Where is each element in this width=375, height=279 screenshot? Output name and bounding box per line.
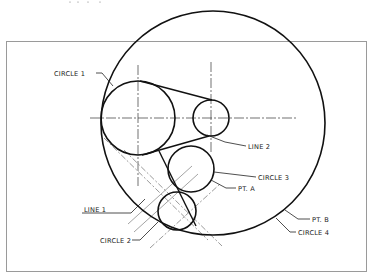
pta-leader	[211, 180, 236, 188]
circle3-leader	[214, 172, 256, 177]
label-line-1: LINE 1	[84, 206, 106, 214]
label-circle-4: CIRCLE 4	[298, 229, 329, 237]
cropped-caption-fragment	[69, 1, 100, 2]
tangent-line-upper	[140, 81, 212, 100]
label-circle-3: CIRCLE 3	[258, 174, 289, 182]
line1-construction-a	[134, 174, 198, 232]
circle-3	[168, 146, 214, 192]
label-circle-2: CIRCLE 2	[100, 237, 131, 245]
label-circle-1: CIRCLE 1	[54, 70, 85, 78]
circle2-leader	[132, 222, 158, 240]
ptb-leader	[285, 210, 310, 219]
tangent-line-1	[159, 151, 196, 226]
construction-diagonal-2	[124, 150, 222, 246]
construction-diagonal-1	[104, 138, 208, 240]
label-pt-a: PT. A	[238, 185, 255, 193]
circle-2	[158, 192, 196, 230]
cad-drawing: CIRCLE 1 LINE 2 CIRCLE 3 PT. A LINE 1 CI…	[0, 0, 375, 279]
circle-4	[101, 11, 325, 235]
circle4-leader	[276, 218, 296, 232]
label-pt-b: PT. B	[312, 216, 329, 224]
label-line-2: LINE 2	[248, 143, 270, 151]
